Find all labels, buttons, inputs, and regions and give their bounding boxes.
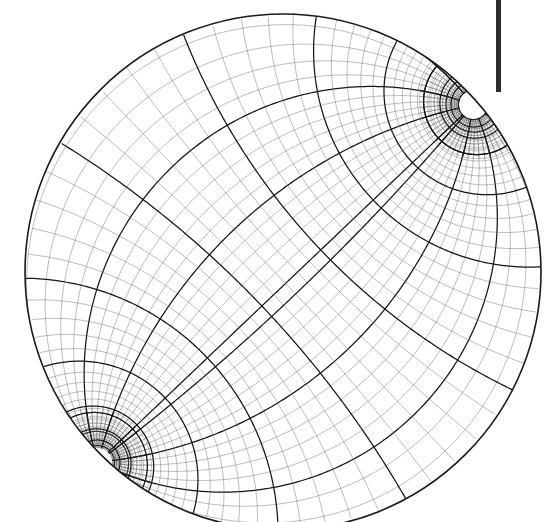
conformal-grid-canvas bbox=[0, 0, 555, 522]
scale-bar bbox=[496, 0, 501, 92]
figure-root bbox=[0, 0, 555, 522]
